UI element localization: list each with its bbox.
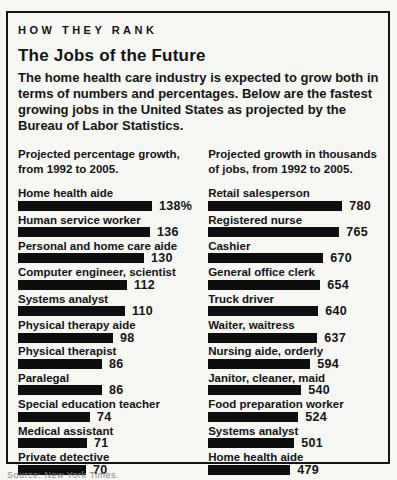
- bar-chart-item: Human service worker 136: [18, 215, 192, 238]
- bar-value: 524: [305, 410, 327, 424]
- bar: [18, 438, 87, 448]
- bar-label: Truck driver: [208, 294, 380, 305]
- bar-chart-item: Physical therapy aide 98: [18, 320, 192, 343]
- bar-chart-item: Special education teacher 74: [18, 399, 192, 422]
- bar-list: Home health aide 138% Human service work…: [18, 188, 192, 475]
- bar-value: 86: [109, 357, 124, 371]
- bar-row: 780: [208, 200, 380, 211]
- bar-value: 594: [317, 357, 339, 371]
- bar: [208, 359, 310, 369]
- bar-row: 71: [18, 438, 192, 449]
- bar-chart-item: Paralegal 86: [18, 373, 192, 396]
- bar-label: Nursing aide, orderly: [208, 346, 380, 357]
- bar-value: 98: [120, 331, 135, 345]
- bar: [18, 306, 125, 316]
- column-header: Projected growth in thousands of jobs, f…: [208, 147, 380, 176]
- infographic-panel: HOW THEY RANK The Jobs of the Future The…: [6, 11, 390, 464]
- bar-row: 86: [18, 358, 192, 369]
- bar-value: 86: [109, 383, 124, 397]
- bar-row: 654: [208, 279, 380, 290]
- bar-row: 112: [18, 279, 192, 290]
- column-header: Projected percentage growth, from 1992 t…: [18, 147, 192, 176]
- bar-label: Systems analyst: [18, 294, 192, 305]
- bar-value: 670: [330, 251, 352, 265]
- bar-row: 74: [18, 411, 192, 422]
- bar-value: 74: [97, 410, 112, 424]
- bar-row: 501: [208, 438, 380, 449]
- bar-row: 765: [208, 227, 380, 238]
- bar: [208, 306, 318, 316]
- bar-chart-item: Home health aide 479: [208, 452, 380, 475]
- bar-row: 670: [208, 253, 380, 264]
- bar: [18, 253, 144, 263]
- bar-label: Registered nurse: [208, 215, 380, 226]
- bar-chart-item: Janitor, cleaner, maid 540: [208, 373, 380, 396]
- bar-label: Home health aide: [18, 188, 192, 199]
- column-percentage-growth: Projected percentage growth, from 1992 t…: [18, 147, 192, 478]
- bar-value: 654: [327, 278, 349, 292]
- bar: [208, 201, 342, 211]
- bar: [18, 412, 90, 422]
- bar-row: 130: [18, 253, 192, 264]
- bar-label: Physical therapist: [18, 346, 192, 357]
- bar-label: Computer engineer, scientist: [18, 267, 192, 278]
- bar-label: Physical therapy aide: [18, 320, 192, 331]
- bar-value: 479: [297, 463, 319, 477]
- bar-label: Medical assistant: [18, 426, 192, 437]
- bar-value: 640: [325, 304, 347, 318]
- bar: [18, 359, 102, 369]
- bar: [208, 385, 301, 395]
- bar-chart-item: Medical assistant 71: [18, 426, 192, 449]
- bar-label: Paralegal: [18, 373, 192, 384]
- bar-label: Waiter, waitress: [208, 320, 380, 331]
- bar-label: Cashier: [208, 241, 380, 252]
- bar-value: 112: [134, 278, 155, 292]
- bar-chart-item: Physical therapist 86: [18, 346, 192, 369]
- bar-chart-item: Home health aide 138%: [18, 188, 192, 211]
- bar-label: Private detective: [18, 452, 192, 463]
- bar: [208, 253, 323, 263]
- bar-row: 524: [208, 411, 380, 422]
- bar-chart-item: Waiter, waitress 637: [208, 320, 380, 343]
- bar: [208, 438, 294, 448]
- bar-value: 138%: [159, 199, 192, 213]
- bar: [18, 201, 152, 211]
- bar-row: 86: [18, 385, 192, 396]
- bar-row: 479: [208, 464, 380, 475]
- bar-value: 637: [324, 331, 346, 345]
- bar-chart-item: Cashier 670: [208, 241, 380, 264]
- bar: [18, 227, 150, 237]
- bar-row: 136: [18, 227, 192, 238]
- panel-kicker: HOW THEY RANK: [18, 24, 380, 36]
- bar-row: 637: [208, 332, 380, 343]
- bar-label: General office clerk: [208, 267, 380, 278]
- bar-label: Food preparation worker: [208, 399, 380, 410]
- bar-value: 130: [151, 251, 173, 265]
- bar-row: 540: [208, 385, 380, 396]
- bar-value: 765: [346, 225, 368, 239]
- bar-value: 780: [349, 199, 371, 213]
- bar: [18, 333, 113, 343]
- bar-chart-item: Truck driver 640: [208, 294, 380, 317]
- bar: [208, 227, 339, 237]
- bar: [18, 280, 127, 290]
- bar-chart-item: Personal and home care aide 130: [18, 241, 192, 264]
- bar-label: Systems analyst: [208, 426, 380, 437]
- bar: [208, 280, 320, 290]
- chart-columns: Projected percentage growth, from 1992 t…: [18, 147, 380, 478]
- bar-chart-item: Computer engineer, scientist 112: [18, 267, 192, 290]
- bar-chart-item: Nursing aide, orderly 594: [208, 346, 380, 369]
- bar-value: 71: [94, 436, 109, 450]
- bar-value: 110: [132, 304, 153, 318]
- bar-label: Retail salesperson: [208, 188, 380, 199]
- bar-value: 501: [301, 436, 323, 450]
- bar-row: 98: [18, 332, 192, 343]
- bar-row: 110: [18, 306, 192, 317]
- bar-row: 640: [208, 306, 380, 317]
- bar-label: Special education teacher: [18, 399, 192, 410]
- bar-row: 594: [208, 358, 380, 369]
- bar-value: 136: [157, 225, 179, 239]
- bar-list: Retail salesperson 780 Registered nurse …: [208, 188, 380, 475]
- bar-label: Home health aide: [208, 452, 380, 463]
- bar-row: 138%: [18, 200, 192, 211]
